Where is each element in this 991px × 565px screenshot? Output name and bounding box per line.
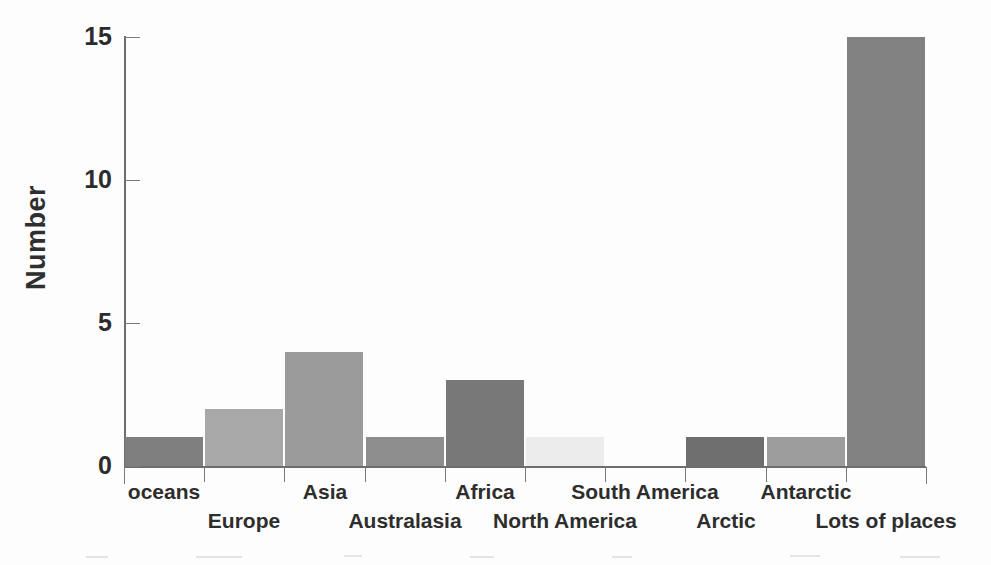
x-tick-mark — [365, 467, 366, 482]
scan-artifact — [790, 555, 820, 557]
bar-antarctic — [767, 437, 845, 466]
y-tick-mark — [124, 37, 140, 38]
x-label-north-america: North America — [493, 510, 637, 531]
x-tick-mark — [926, 467, 927, 484]
y-tick-label: 0 — [66, 453, 112, 478]
y-tick-mark — [124, 323, 140, 324]
y-tick-mark — [124, 180, 140, 181]
x-label-lots-of-places: Lots of places — [815, 510, 956, 531]
x-tick-mark — [445, 467, 446, 482]
y-tick-label: 10 — [66, 167, 112, 192]
x-label-south-america: South America — [571, 481, 718, 502]
x-tick-mark — [284, 467, 285, 482]
scan-artifact — [86, 556, 108, 558]
x-label-arctic: Arctic — [696, 510, 756, 531]
bar-chart: Number 051015 oceansEuropeAsiaAustralasi… — [0, 0, 991, 565]
y-axis-line — [124, 36, 126, 467]
y-axis-title: Number — [21, 158, 52, 318]
x-label-australasia: Australasia — [348, 510, 461, 531]
x-label-asia: Asia — [303, 481, 347, 502]
x-label-africa: Africa — [455, 481, 515, 502]
bar-north-america — [526, 437, 604, 466]
scan-artifact — [612, 556, 632, 558]
scan-artifact — [470, 556, 494, 558]
scan-artifact — [196, 556, 242, 558]
x-label-europe: Europe — [208, 510, 280, 531]
x-tick-mark — [204, 467, 205, 482]
bar-asia — [285, 352, 363, 466]
bar-arctic — [686, 437, 764, 466]
x-label-oceans: oceans — [128, 481, 200, 502]
x-tick-mark — [124, 467, 125, 484]
x-label-antarctic: Antarctic — [760, 481, 851, 502]
bar-australasia — [366, 437, 444, 466]
scan-artifact — [344, 555, 362, 557]
bar-oceans — [125, 437, 203, 466]
bar-europe — [205, 409, 283, 466]
scan-artifact — [900, 556, 940, 558]
y-tick-label: 5 — [66, 310, 112, 335]
bar-africa — [446, 380, 524, 466]
x-tick-mark — [525, 467, 526, 482]
bar-lots-of-places — [847, 37, 925, 466]
y-tick-label: 15 — [66, 24, 112, 49]
